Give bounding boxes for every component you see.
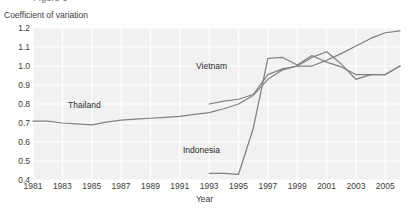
y-tick-label: 0.6 <box>4 138 30 147</box>
y-tick-label: 1.0 <box>4 62 30 71</box>
x-axis-title: Year <box>0 194 409 204</box>
y-tick-label: 0.5 <box>4 157 30 166</box>
y-tick-label: 0.7 <box>4 119 30 128</box>
y-tick-label: 0.8 <box>4 100 30 109</box>
y-tick-label: 0.9 <box>4 81 30 90</box>
cutoff-caption-top: Figure 3 <box>33 0 93 4</box>
series-label-thailand: Thailand <box>68 101 101 110</box>
y-axis-ticks: 1.21.11.00.90.80.70.60.50.4 <box>0 0 30 211</box>
chart-figure: Figure 3 Coefficient of variation 1.21.1… <box>0 0 409 211</box>
x-tick-label: 2005 <box>368 182 402 191</box>
series-label-vietnam: Vietnam <box>196 62 227 71</box>
y-tick-label: 1.1 <box>4 43 30 52</box>
chart-plot-area <box>0 0 409 211</box>
y-tick-label: 1.2 <box>4 24 30 33</box>
series-label-indonesia: Indonesia <box>183 146 220 155</box>
